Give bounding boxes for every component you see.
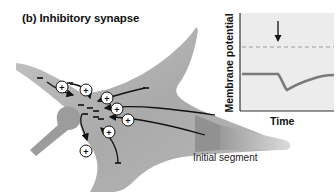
- svg-text:+: +: [83, 147, 88, 157]
- svg-text:+: +: [114, 105, 119, 115]
- svg-text:+: +: [125, 116, 130, 126]
- positive-ion-icon: +: [56, 81, 68, 93]
- initial-segment-label: Initial segment: [193, 152, 257, 163]
- positive-ion-icon: +: [101, 92, 113, 104]
- graph-y-axis-label: Membrane potential: [219, 13, 239, 113]
- svg-text:+: +: [59, 83, 64, 93]
- figure-title: (b) Inhibitory synapse: [22, 12, 139, 24]
- svg-text:+: +: [104, 94, 109, 104]
- positive-ion-icon: +: [80, 84, 92, 96]
- membrane-potential-graph: [238, 13, 336, 113]
- svg-text:+: +: [106, 128, 111, 138]
- positive-ion-icon: +: [80, 145, 92, 157]
- positive-ion-icon: +: [122, 114, 134, 126]
- graph-x-axis-label: Time: [270, 115, 294, 127]
- presynaptic-terminal: [30, 106, 80, 156]
- svg-text:+: +: [83, 86, 88, 96]
- positive-ion-icon: +: [111, 103, 123, 115]
- axon: [220, 125, 290, 150]
- positive-ion-icon: +: [103, 126, 115, 138]
